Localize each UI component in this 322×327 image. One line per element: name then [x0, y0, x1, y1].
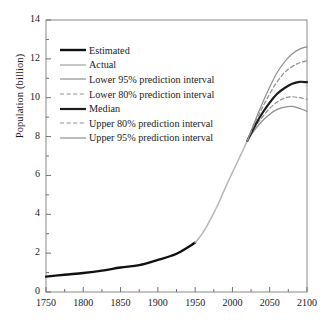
legend-swatch-line-icon — [60, 74, 86, 84]
x-tick-label: 2000 — [212, 297, 252, 308]
legend-item: Median — [60, 101, 214, 116]
legend-swatch-line-icon — [60, 45, 86, 55]
population-projection-chart: Population (billion) 02468101214 1750180… — [0, 0, 322, 327]
y-tick-label: 2 — [14, 246, 40, 257]
legend-label: Lower 80% prediction interval — [89, 89, 214, 100]
series-line-4 — [247, 82, 307, 141]
legend-label: Upper 80% prediction interval — [89, 118, 213, 129]
legend-swatch-line-icon — [60, 89, 86, 99]
legend-label: Lower 95% prediction interval — [89, 74, 214, 85]
legend-item: Estimated — [60, 43, 214, 58]
legend-label: Median — [89, 103, 120, 114]
legend-item: Actual — [60, 58, 214, 73]
x-tick-label: 2050 — [250, 297, 290, 308]
x-tick-label: 2100 — [287, 297, 322, 308]
y-tick-label: 8 — [14, 130, 40, 141]
legend-item: Upper 95% prediction interval — [60, 131, 214, 146]
legend-label: Estimated — [89, 45, 130, 56]
y-tick-label: 14 — [14, 13, 40, 24]
legend-label: Upper 95% prediction interval — [89, 132, 213, 143]
legend-swatch-line-icon — [60, 104, 86, 114]
x-tick-label: 1750 — [26, 297, 66, 308]
legend-item: Lower 95% prediction interval — [60, 72, 214, 87]
series-line-1 — [195, 141, 247, 243]
legend-item: Upper 80% prediction interval — [60, 116, 214, 131]
y-tick-label: 12 — [14, 52, 40, 63]
legend-swatch-line-icon — [60, 60, 86, 70]
y-tick-label: 4 — [14, 207, 40, 218]
x-tick-label: 1950 — [175, 297, 215, 308]
legend-item: Lower 80% prediction interval — [60, 87, 214, 102]
chart-legend: EstimatedActualLower 95% prediction inte… — [60, 43, 214, 145]
legend-swatch-line-icon — [60, 118, 86, 128]
y-tick-label: 0 — [14, 285, 40, 296]
y-tick-label: 10 — [14, 91, 40, 102]
x-tick-label: 1800 — [63, 297, 103, 308]
x-tick-label: 1900 — [138, 297, 178, 308]
legend-swatch-line-icon — [60, 133, 86, 143]
series-line-0 — [46, 243, 195, 277]
legend-label: Actual — [89, 59, 116, 70]
y-tick-label: 6 — [14, 168, 40, 179]
x-tick-label: 1850 — [101, 297, 141, 308]
